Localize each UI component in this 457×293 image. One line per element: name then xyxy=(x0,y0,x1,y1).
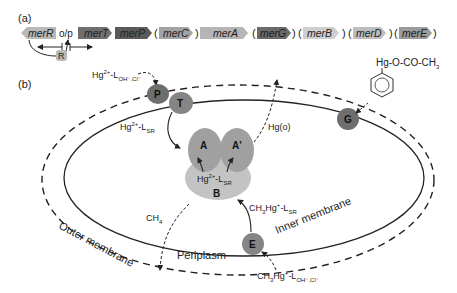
gene-merT: merT xyxy=(78,27,112,39)
ch4-label: CH4 xyxy=(146,213,163,225)
gene-label-merT: merT xyxy=(84,27,110,39)
svg-text:): ) xyxy=(195,27,199,39)
mehg-sr-label: CH3Hg+-LSR xyxy=(249,202,297,215)
operator-promoter-label: o/p xyxy=(59,28,73,39)
gene-merR: merR xyxy=(21,27,56,39)
protein-A-prime-label: A' xyxy=(232,140,242,151)
protein-B-label: B xyxy=(213,188,220,199)
gene-label-merE: merE xyxy=(402,27,428,39)
panel-b-label: (b) xyxy=(18,78,31,90)
gene-label-merB: merB xyxy=(307,27,332,39)
gene-label-merD: merD xyxy=(356,27,382,39)
hg2-sr-periplasm-label: Hg2+-LSR xyxy=(120,121,155,134)
svg-text:(: ( xyxy=(394,27,398,39)
outer-membrane-label: Outer membrane xyxy=(57,219,136,269)
protein-P-label: P xyxy=(154,89,161,100)
gene-merA: merA xyxy=(200,27,248,39)
hg0-label: Hg(o) xyxy=(268,122,291,132)
protein-G-label: G xyxy=(344,114,352,125)
panel-a-label: (a) xyxy=(18,12,31,24)
svg-text:(: ( xyxy=(348,27,352,39)
phenylmercury-label: Hg-O-CO-CH3 xyxy=(376,57,440,70)
gene-merB: ( merB ) xyxy=(298,27,346,39)
hg2-input-label: Hg2+-LOH⁻,Cl⁻ xyxy=(92,69,141,82)
gene-merP: merP xyxy=(115,27,152,39)
svg-text:(: ( xyxy=(298,27,302,39)
gene-label-merR: merR xyxy=(28,27,54,39)
gene-label-merC: merC xyxy=(163,27,189,39)
phenylmercury-structure xyxy=(371,68,393,97)
svg-text:): ) xyxy=(292,27,296,39)
protein-E-label: E xyxy=(249,239,256,250)
svg-text:): ) xyxy=(342,27,346,39)
svg-text:): ) xyxy=(433,27,437,39)
mer-operon-diagram: (a) merR o/p R merT merP ( merC ) merA ( xyxy=(0,0,457,293)
svg-text:(: ( xyxy=(252,27,256,39)
svg-text:): ) xyxy=(389,27,393,39)
regulator-R-label: R xyxy=(58,51,65,61)
gene-label-merA: merA xyxy=(213,27,238,39)
regulation-arrows: R xyxy=(29,40,92,61)
periplasm-label: Periplasm xyxy=(177,249,226,261)
gene-merC: ( merC ) xyxy=(154,27,199,39)
gene-label-merP: merP xyxy=(120,27,145,39)
protein-A-label: A xyxy=(200,140,207,151)
protein-T-label: T xyxy=(177,98,183,109)
gene-merE: ( merE ) xyxy=(394,27,437,39)
mehg-input-label: CH3Hg+-LOH⁻,Cl⁻ xyxy=(257,270,319,283)
inner-membrane-label: Inner membrane xyxy=(273,194,352,235)
gene-merD: ( merD ) xyxy=(348,27,393,39)
svg-text:(: ( xyxy=(154,27,158,39)
gene-merG: ( merG ) xyxy=(252,27,296,39)
gene-label-merG: merG xyxy=(260,27,286,39)
